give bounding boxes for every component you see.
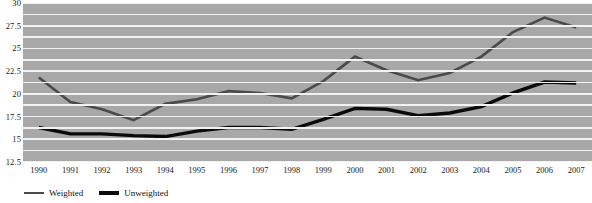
- gridline: [23, 150, 592, 152]
- x-tick-label: 2001: [378, 165, 395, 175]
- legend-item-unweighted: Unweighted: [99, 188, 168, 198]
- gridline: [23, 161, 592, 162]
- y-tick-label: 30: [12, 0, 21, 8]
- x-tick-label: 2002: [410, 165, 427, 175]
- x-tick-label: 1998: [283, 165, 300, 175]
- gridline: [23, 116, 592, 118]
- y-axis: 12.51517.52022.52527.530: [0, 0, 23, 163]
- line-chart: 12.51517.52022.52527.530 199019911992199…: [0, 0, 592, 203]
- x-tick-label: 1997: [252, 165, 269, 175]
- x-tick-label: 1999: [315, 165, 332, 175]
- gridline: [23, 138, 592, 140]
- x-tick-label: 2004: [473, 165, 490, 175]
- x-axis: 1990199119921993199419951996199719981999…: [23, 165, 592, 179]
- gridline: [23, 70, 592, 72]
- x-tick-label: 1992: [94, 165, 111, 175]
- y-tick-label: 25: [12, 43, 21, 53]
- y-tick-label: 22.5: [6, 66, 21, 76]
- chart-legend: Weighted Unweighted: [24, 186, 168, 200]
- y-tick-label: 17.5: [6, 112, 21, 122]
- x-tick-label: 1995: [188, 165, 205, 175]
- x-tick-label: 1990: [30, 165, 47, 175]
- y-tick-label: 15: [12, 134, 21, 144]
- gridline: [23, 127, 592, 129]
- legend-swatch-weighted-icon: [24, 192, 44, 195]
- x-tick-label: 2003: [441, 165, 458, 175]
- gridline: [23, 3, 592, 4]
- legend-swatch-unweighted-icon: [99, 191, 119, 194]
- legend-label-unweighted: Unweighted: [124, 188, 168, 198]
- x-tick-label: 2007: [568, 165, 585, 175]
- gridline: [23, 14, 592, 16]
- x-tick-label: 1993: [125, 165, 142, 175]
- y-tick-label: 12.5: [6, 157, 21, 167]
- y-tick-label: 27.5: [6, 21, 21, 31]
- gridline: [23, 93, 592, 95]
- gridline: [23, 59, 592, 61]
- gridline: [23, 25, 592, 27]
- gridline: [23, 48, 592, 50]
- plot-area: [23, 3, 592, 162]
- legend-item-weighted: Weighted: [24, 188, 83, 198]
- x-tick-label: 2000: [346, 165, 363, 175]
- gridline: [23, 36, 592, 38]
- legend-label-weighted: Weighted: [49, 188, 83, 198]
- x-tick-label: 2006: [536, 165, 553, 175]
- x-tick-label: 1991: [62, 165, 79, 175]
- x-tick-label: 1996: [220, 165, 237, 175]
- y-tick-label: 20: [12, 89, 21, 99]
- gridline: [23, 82, 592, 84]
- x-tick-label: 2005: [504, 165, 521, 175]
- x-tick-label: 1994: [157, 165, 174, 175]
- gridline: [23, 104, 592, 106]
